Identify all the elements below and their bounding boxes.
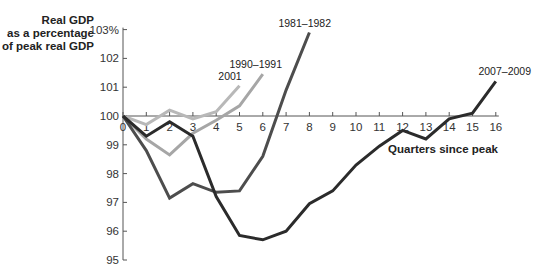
x-tick-label: 8 — [306, 121, 312, 133]
series-label: 1990–1991 — [229, 58, 282, 70]
y-tick-label: 100 — [100, 110, 119, 122]
series-line-2007-2009 — [123, 81, 496, 239]
x-tick-label: 10 — [350, 121, 363, 133]
y-tick-label: 95 — [106, 254, 119, 266]
x-tick-label: 15 — [466, 121, 479, 133]
axes: 9596979899100101102103%01234567891011121… — [90, 24, 503, 266]
x-tick-label: 6 — [260, 121, 266, 133]
y-tick-label: 101 — [100, 81, 119, 93]
series-label: 2001 — [218, 70, 242, 82]
y-tick-label: 102 — [100, 52, 119, 64]
series-labels: 2007–20091981–19821990–19912001 — [218, 17, 531, 82]
x-tick-label: 5 — [236, 121, 242, 133]
x-tick-label: 16 — [489, 121, 502, 133]
x-axis-label: Quarters since peak — [388, 143, 499, 155]
x-tick-label: 7 — [283, 121, 289, 133]
x-tick-label: 9 — [329, 121, 335, 133]
series-line-2001 — [123, 86, 240, 125]
series-label: 1981–1982 — [278, 17, 331, 29]
x-tick-label: 11 — [373, 121, 385, 133]
y-tick-label: 99 — [106, 139, 119, 151]
series-label: 2007–2009 — [478, 65, 531, 77]
y-tick-label: 103% — [90, 24, 119, 36]
x-tick-label: 13 — [420, 121, 433, 133]
x-tick-label: 0 — [120, 121, 126, 133]
y-tick-label: 98 — [106, 168, 119, 180]
line-chart: 9596979899100101102103%01234567891011121… — [0, 0, 534, 276]
series-lines — [123, 33, 496, 240]
y-tick-label: 96 — [106, 225, 119, 237]
y-tick-label: 97 — [106, 196, 119, 208]
